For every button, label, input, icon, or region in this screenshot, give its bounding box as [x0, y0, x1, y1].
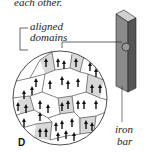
iron-bar: [116, 10, 136, 92]
panel-letter: D: [18, 137, 25, 148]
label-iron: iron: [115, 124, 133, 135]
label-domains: domains: [30, 32, 67, 43]
magnified-domains: [10, 48, 110, 148]
label-bar: bar: [117, 136, 132, 147]
